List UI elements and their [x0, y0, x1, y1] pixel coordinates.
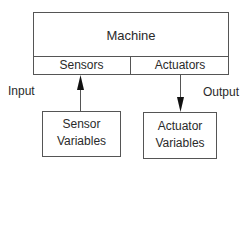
input-arrow-icon: [77, 75, 84, 111]
actuator-variables-line2: Variables: [143, 136, 217, 151]
output-label: Output: [203, 85, 247, 100]
output-arrow-icon: [177, 75, 184, 112]
sensor-variables-line1: Sensor: [42, 117, 121, 132]
sensor-variables-line2: Variables: [42, 134, 121, 149]
actuator-variables-line1: Actuator: [143, 119, 217, 134]
input-label: Input: [8, 84, 42, 99]
